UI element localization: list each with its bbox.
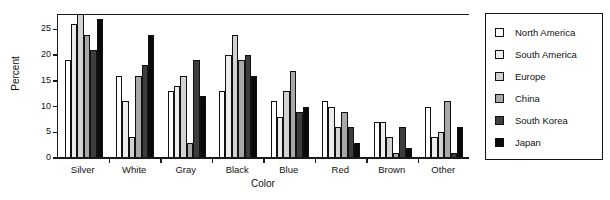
legend-item[interactable]: China	[486, 87, 602, 109]
legend-label: South America	[515, 49, 577, 60]
bar	[148, 35, 154, 158]
legend-label: South Korea	[515, 115, 568, 126]
legend-item[interactable]: Europe	[486, 65, 602, 87]
chart-figure: 0510152025 Percent Color North AmericaSo…	[0, 0, 610, 200]
bar-group	[322, 15, 360, 158]
legend-swatch-icon	[495, 28, 504, 37]
x-axis-tick	[366, 157, 368, 163]
y-tick-label: 20	[41, 49, 51, 60]
y-tick-label: 10	[41, 101, 51, 112]
x-axis-tick	[418, 157, 420, 163]
legend-item[interactable]: South Korea	[486, 109, 602, 131]
x-axis-tick	[263, 157, 265, 163]
bar	[354, 143, 360, 158]
legend-swatch-icon	[495, 72, 504, 81]
legend-item[interactable]: South America	[486, 43, 602, 65]
legend-swatch-icon	[495, 50, 504, 59]
plot-area	[57, 14, 469, 158]
bar-group	[65, 15, 103, 158]
bars-container	[58, 15, 469, 158]
y-tick-label: 15	[41, 75, 51, 86]
x-axis-label: Silver	[57, 164, 109, 175]
bar-group	[374, 15, 412, 158]
bar	[97, 19, 103, 158]
legend: North AmericaSouth AmericaEuropeChinaSou…	[485, 13, 603, 160]
bar-group	[425, 15, 463, 158]
legend-swatch-icon	[495, 138, 504, 147]
legend-label: North America	[515, 27, 575, 38]
bar	[457, 127, 463, 158]
x-axis-label: Black	[212, 164, 264, 175]
bar-group	[116, 15, 154, 158]
bar	[251, 76, 257, 158]
legend-swatch-icon	[495, 94, 504, 103]
y-axis-title: Percent	[10, 34, 21, 114]
legend-item[interactable]: North America	[486, 21, 602, 43]
bar	[200, 96, 206, 158]
x-axis-label: Red	[315, 164, 367, 175]
legend-item[interactable]: Japan	[486, 131, 602, 153]
x-axis-label: Gray	[160, 164, 212, 175]
bar-group	[168, 15, 206, 158]
x-axis-label: Brown	[366, 164, 418, 175]
x-axis-tick	[160, 157, 162, 163]
legend-label: Japan	[515, 137, 541, 148]
x-axis-tick	[212, 157, 214, 163]
bar	[303, 107, 309, 158]
x-axis-label: Blue	[263, 164, 315, 175]
x-axis-tick	[315, 157, 317, 163]
x-axis-title: Color	[57, 178, 469, 189]
bar-group	[271, 15, 309, 158]
x-axis-tick	[109, 157, 111, 163]
legend-label: China	[515, 93, 540, 104]
y-tick-label: 25	[41, 23, 51, 34]
legend-swatch-icon	[495, 116, 504, 125]
bar	[444, 101, 450, 158]
bar-group	[219, 15, 257, 158]
legend-label: Europe	[515, 71, 546, 82]
y-tick-label: 0	[46, 152, 51, 163]
y-tick-label: 5	[46, 126, 51, 137]
x-axis-label: White	[109, 164, 161, 175]
x-axis-label: Other	[418, 164, 470, 175]
